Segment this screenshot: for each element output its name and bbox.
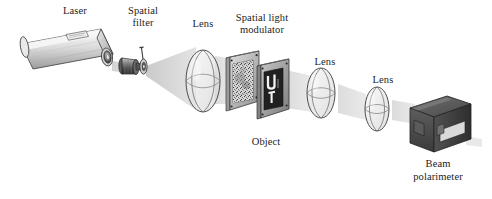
object	[257, 59, 289, 119]
label-lens-1: Lens	[178, 18, 228, 31]
label-spatial-filter-line2: filter	[114, 17, 172, 30]
spatial-filter	[119, 47, 147, 75]
label-laser: Laser	[48, 5, 102, 18]
laser	[19, 29, 114, 69]
label-slm-line2: modulator	[222, 24, 302, 37]
label-slm-line1: Spatial light	[222, 12, 302, 25]
pinhole-icon	[140, 59, 147, 74]
label-lens-3: Lens	[358, 74, 408, 87]
optical-setup-diagram: Laser Spatial filter Lens Spatial light …	[0, 0, 492, 199]
label-object: Object	[240, 136, 292, 149]
label-lens-2: Lens	[300, 56, 350, 69]
lens-3	[365, 87, 389, 131]
label-polarimeter-line1: Beam	[398, 158, 478, 171]
lens-1	[186, 50, 220, 112]
lens-2	[307, 68, 335, 118]
spatial-light-modulator	[226, 51, 259, 111]
label-spatial-filter-line1: Spatial	[114, 5, 172, 18]
beam-polarimeter	[410, 96, 471, 152]
label-polarimeter-line2: polarimeter	[390, 171, 486, 184]
